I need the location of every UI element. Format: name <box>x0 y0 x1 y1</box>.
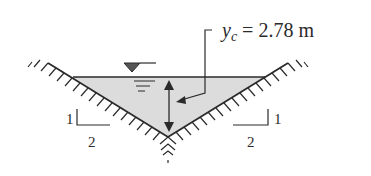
hatching-bottom <box>160 137 176 163</box>
depth-label: yc = 2.78 m <box>220 19 314 44</box>
left-slope-rise: 1 <box>66 111 74 127</box>
slope-indicator-left: 1 2 <box>66 109 110 150</box>
depth-symbol: y <box>220 19 231 42</box>
right-slope-rise: 1 <box>274 111 282 127</box>
right-slope-run: 2 <box>247 134 255 150</box>
left-slope-run: 2 <box>88 134 96 150</box>
depth-value: = 2.78 m <box>237 19 314 41</box>
channel-diagram: yc = 2.78 m 1 2 1 2 <box>0 0 371 176</box>
slope-indicator-right: 1 2 <box>233 109 282 150</box>
